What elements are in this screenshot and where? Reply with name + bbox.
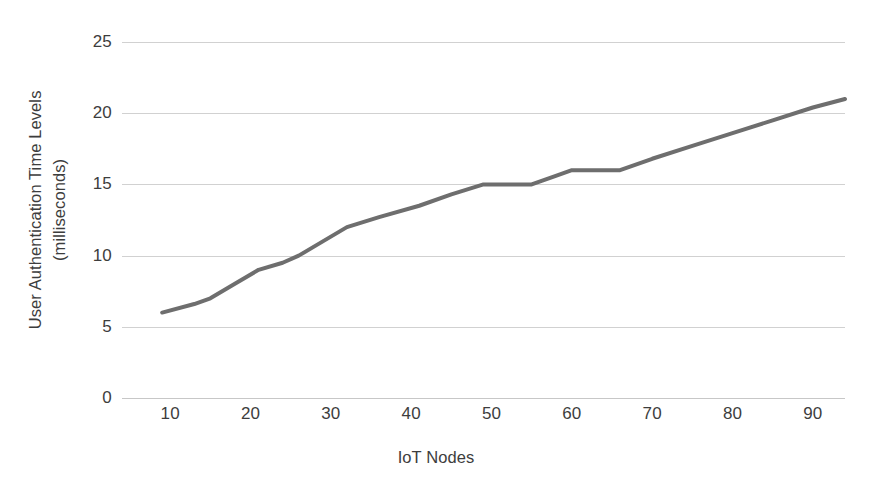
x-tick-label-80: 80 bbox=[723, 404, 742, 424]
gridline-y-0 bbox=[122, 398, 845, 399]
y-tick-label-15: 15 bbox=[78, 174, 112, 194]
y-tick-label-10: 10 bbox=[78, 246, 112, 266]
y-axis-title-line-1: User Authentication Time Levels bbox=[24, 91, 48, 330]
x-axis-title: IoT Nodes bbox=[0, 448, 872, 467]
y-axis-tick-labels: 0510152025 bbox=[78, 0, 112, 502]
series-line-user-authentication-time bbox=[122, 42, 845, 398]
x-tick-label-50: 50 bbox=[482, 404, 501, 424]
y-tick-label-20: 20 bbox=[78, 103, 112, 123]
x-axis-tick-labels: 102030405060708090 bbox=[122, 404, 845, 436]
x-tick-label-20: 20 bbox=[241, 404, 260, 424]
line-chart-figure: User Authentication Time Levels (millise… bbox=[0, 0, 872, 502]
x-tick-label-30: 30 bbox=[321, 404, 340, 424]
series-polyline bbox=[162, 99, 845, 313]
y-axis-title-line-2: (milliseconds) bbox=[48, 91, 72, 330]
y-tick-label-25: 25 bbox=[78, 32, 112, 52]
y-tick-label-0: 0 bbox=[78, 388, 112, 408]
x-tick-label-60: 60 bbox=[562, 404, 581, 424]
x-tick-label-40: 40 bbox=[402, 404, 421, 424]
y-tick-label-5: 5 bbox=[78, 317, 112, 337]
plot-area bbox=[122, 42, 845, 398]
x-tick-label-90: 90 bbox=[803, 404, 822, 424]
x-tick-label-10: 10 bbox=[161, 404, 180, 424]
x-tick-label-70: 70 bbox=[643, 404, 662, 424]
